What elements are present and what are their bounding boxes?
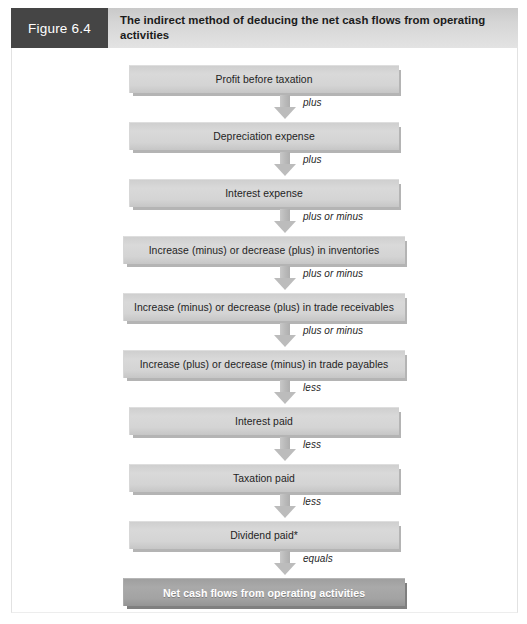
flow-node-label: Profit before taxation (216, 74, 313, 85)
flow-connector: plus or minus (0, 323, 527, 347)
flow-connector: less (0, 437, 527, 461)
arrow-down-icon (274, 494, 296, 518)
flow-connector: plus or minus (0, 266, 527, 290)
flow-node: Interest paid (129, 407, 399, 435)
arrow-head (274, 392, 296, 404)
flow-connector-label: less (303, 439, 321, 450)
flow-node: Depreciation expense (129, 122, 399, 150)
flow-connector-label: plus or minus (303, 325, 363, 336)
flow-row: Interest expenseplus or minus (0, 176, 527, 233)
flow-node-label: Interest expense (225, 188, 303, 199)
arrow-down-icon (274, 209, 296, 233)
flow-connector: equals (0, 551, 527, 575)
arrow-head (274, 335, 296, 347)
flow-node: Increase (minus) or decrease (plus) in t… (123, 293, 405, 321)
flow-node-label: Net cash flows from operating activities (163, 587, 365, 599)
flow-node-label: Taxation paid (233, 473, 295, 484)
flow-row: Depreciation expenseplus (0, 119, 527, 176)
flow-row: Increase (minus) or decrease (plus) in t… (0, 290, 527, 347)
arrow-down-icon (274, 323, 296, 347)
figure-page: Figure 6.4 The indirect method of deduci… (0, 0, 527, 624)
figure-number-badge: Figure 6.4 (11, 8, 108, 48)
flow-node-label: Interest paid (235, 416, 293, 427)
flow-connector: less (0, 494, 527, 518)
flow-connector-label: plus or minus (303, 211, 363, 222)
flow-connector: plus (0, 152, 527, 176)
figure-title-text: The indirect method of deducing the net … (108, 13, 518, 43)
flow-row: Dividend paid*equals (0, 518, 527, 575)
arrow-head (274, 506, 296, 518)
flow-node-label: Increase (minus) or decrease (plus) in i… (149, 245, 380, 256)
arrow-down-icon (274, 266, 296, 290)
arrow-down-icon (274, 152, 296, 176)
flow-node: Profit before taxation (129, 65, 399, 93)
flow-connector-label: plus (303, 97, 322, 108)
flow-row: Profit before taxationplus (0, 62, 527, 119)
flow-connector-label: plus (303, 154, 322, 165)
flow-connector-label: plus or minus (303, 268, 363, 279)
flow-node-label: Dividend paid* (230, 530, 298, 541)
arrow-head (274, 278, 296, 290)
flow-connector-label: less (303, 496, 321, 507)
figure-header: Figure 6.4 The indirect method of deduci… (11, 8, 518, 48)
flow-row: Interest paidless (0, 404, 527, 461)
flow-node-result: Net cash flows from operating activities (123, 578, 405, 606)
flow-connector: less (0, 380, 527, 404)
arrow-head (274, 221, 296, 233)
flow-node: Dividend paid* (129, 521, 399, 549)
flow-node-label: Increase (minus) or decrease (plus) in t… (134, 302, 394, 313)
flow-node: Taxation paid (129, 464, 399, 492)
flow-connector: plus or minus (0, 209, 527, 233)
flow-connector-label: equals (303, 553, 333, 564)
flow-connector-label: less (303, 382, 321, 393)
flow-row: Net cash flows from operating activities (0, 575, 527, 615)
flow-row: Increase (plus) or decrease (minus) in t… (0, 347, 527, 404)
arrow-head (274, 107, 296, 119)
arrow-down-icon (274, 95, 296, 119)
arrow-head (274, 164, 296, 176)
arrow-down-icon (274, 380, 296, 404)
flow-node-label: Increase (plus) or decrease (minus) in t… (140, 359, 389, 370)
flow-node: Interest expense (129, 179, 399, 207)
arrow-down-icon (274, 437, 296, 461)
arrow-head (274, 563, 296, 575)
arrow-down-icon (274, 551, 296, 575)
flow-row: Increase (minus) or decrease (plus) in i… (0, 233, 527, 290)
figure-number-text: Figure 6.4 (28, 21, 91, 36)
flow-node: Increase (plus) or decrease (minus) in t… (123, 350, 405, 378)
arrow-head (274, 449, 296, 461)
flow-node-label: Depreciation expense (213, 131, 315, 142)
flow-row: Taxation paidless (0, 461, 527, 518)
flow-diagram: Profit before taxationplusDepreciation e… (0, 62, 527, 615)
flow-node: Increase (minus) or decrease (plus) in i… (123, 236, 405, 264)
figure-title-bar: The indirect method of deducing the net … (108, 8, 518, 48)
flow-connector: plus (0, 95, 527, 119)
